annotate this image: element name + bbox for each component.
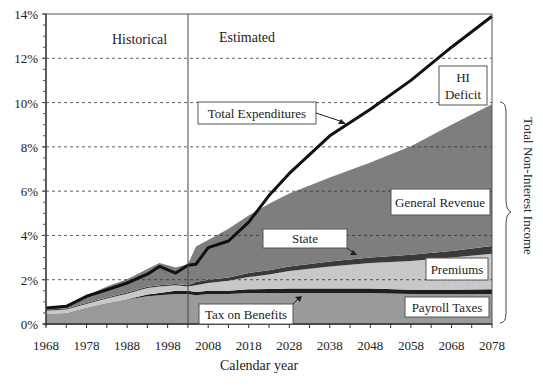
y-tick-label: 6% bbox=[21, 184, 39, 199]
total-non-interest-income-label: Total Non-Interest Income bbox=[521, 117, 536, 255]
annotation-general-revenue: General Revenue bbox=[391, 189, 490, 215]
svg-text:Deficit: Deficit bbox=[445, 87, 481, 102]
svg-text:Payroll Taxes: Payroll Taxes bbox=[412, 300, 483, 315]
svg-text:HI: HI bbox=[456, 70, 470, 85]
y-tick-label: 0% bbox=[21, 317, 39, 332]
x-tick-label: 2048 bbox=[357, 338, 383, 353]
y-tick-label: 12% bbox=[14, 51, 38, 66]
historical-label: Historical bbox=[112, 32, 167, 47]
x-tick-label: 1988 bbox=[114, 338, 140, 353]
y-tick-label: 14% bbox=[14, 7, 38, 22]
y-tick-label: 10% bbox=[14, 96, 38, 111]
svg-text:Total Expenditures: Total Expenditures bbox=[208, 106, 306, 121]
x-tick-label: 2038 bbox=[317, 338, 343, 353]
x-tick-label: 2058 bbox=[398, 338, 424, 353]
x-tick-label: 1978 bbox=[74, 338, 100, 353]
x-tick-label: 2018 bbox=[236, 338, 262, 353]
stacked-area-chart: 0%2%4%6%8%10%12%14% 19681978198819982008… bbox=[0, 0, 543, 386]
svg-text:Premiums: Premiums bbox=[431, 262, 484, 277]
annotation-premiums: Premiums bbox=[426, 258, 488, 280]
y-tick-label: 4% bbox=[21, 228, 39, 243]
x-tick-label: 1968 bbox=[33, 338, 59, 353]
svg-text:Tax on Benefits: Tax on Benefits bbox=[205, 307, 287, 322]
svg-text:General Revenue: General Revenue bbox=[395, 195, 485, 210]
svg-text:State: State bbox=[292, 231, 318, 246]
x-tick-label: 2008 bbox=[195, 338, 221, 353]
y-tick-label: 2% bbox=[21, 273, 39, 288]
annotation-payroll-taxes: Payroll Taxes bbox=[405, 297, 489, 317]
x-tick-label: 1998 bbox=[155, 338, 181, 353]
annotation-hi-deficit: HI Deficit bbox=[439, 66, 487, 105]
x-axis-title: Calendar year bbox=[220, 358, 298, 373]
y-tick-label: 8% bbox=[21, 140, 39, 155]
x-tick-label: 2068 bbox=[438, 338, 464, 353]
x-tick-label: 2078 bbox=[479, 338, 505, 353]
x-tick-label: 2028 bbox=[276, 338, 302, 353]
estimated-label: Estimated bbox=[219, 30, 275, 45]
y-axis-ticks: 0%2%4%6%8%10%12%14% bbox=[14, 7, 46, 332]
annotation-total-expenditures: Total Expenditures bbox=[198, 102, 346, 124]
x-axis-ticks: 1968197819881998200820182028203820482058… bbox=[33, 324, 505, 353]
right-brace bbox=[500, 102, 511, 323]
